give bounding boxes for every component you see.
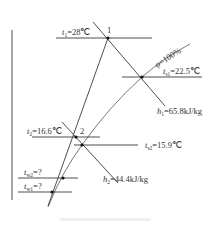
saturation-point-s2 — [80, 143, 83, 146]
ts1-label: ts1=22.5℃ — [163, 66, 200, 77]
psychrometric-diagram: 1 2 t1=28℃ φ=100% ts1=22.5℃ h1=65.8kJ/kg… — [0, 0, 218, 227]
tw2-label: tw2=? — [24, 167, 42, 178]
point-2-label: 2 — [80, 126, 84, 136]
saturation-point-s1 — [140, 75, 143, 78]
state-point-2 — [74, 135, 77, 138]
h1-label: h1=65.8kJ/kg — [157, 106, 203, 117]
state-point-1 — [106, 36, 109, 39]
wet-bulb-point-w2 — [61, 176, 64, 179]
point-1-label: 1 — [107, 25, 111, 35]
wet-bulb-point-w1 — [50, 190, 53, 193]
faint-caption — [60, 218, 150, 221]
h2-label: h2=44.4kJ/kg — [103, 174, 149, 185]
ts2-label: ts2=15.9℃ — [145, 140, 182, 151]
tw1-label: tw1=? — [24, 181, 42, 192]
t1-label: t1=28℃ — [62, 27, 90, 38]
t2-label: t2=16.6℃ — [27, 126, 62, 137]
